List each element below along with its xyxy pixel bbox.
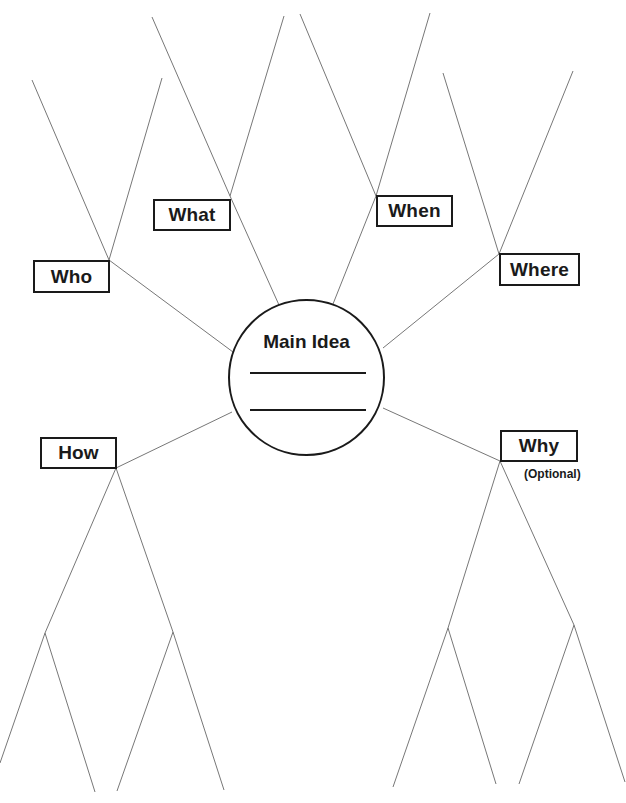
main-idea-label: Main Idea [230,331,383,353]
branch-how-right [117,632,224,791]
spoke-when [333,196,376,304]
spoke-what [230,196,279,305]
branch-why [448,461,574,628]
branch-what [152,16,284,196]
how-box: How [40,437,117,469]
answer-line-1[interactable] [250,372,366,374]
branch-why-right [519,625,625,784]
spoke-where [383,254,499,348]
who-box: Who [33,260,110,293]
where-box: Where [499,253,580,286]
branch-how [45,468,173,633]
how-label: How [58,442,99,464]
why-box: Why [500,430,578,462]
who-label: Who [51,266,93,288]
why-optional-note: (Optional) [524,467,581,481]
branch-where [443,71,573,254]
when-label: When [388,200,441,222]
spoke-how [116,412,232,468]
spoke-who [109,260,233,352]
answer-line-2[interactable] [250,409,366,411]
branch-who [32,78,162,260]
main-idea-circle: Main Idea [228,299,385,456]
why-label: Why [519,435,560,457]
when-box: When [376,195,453,227]
where-label: Where [510,259,569,281]
what-box: What [153,199,231,231]
what-label: What [168,204,215,226]
branch-why-left [393,628,496,787]
branch-when [300,13,430,196]
branch-how-left [0,633,95,792]
spoke-why [383,408,500,461]
